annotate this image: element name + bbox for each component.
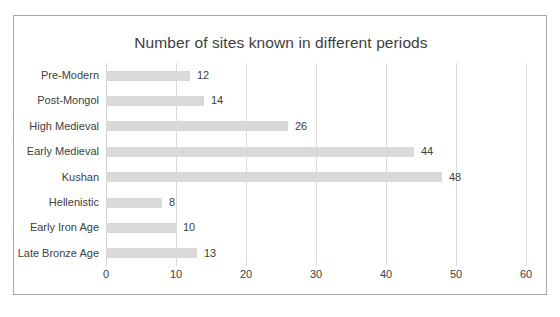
bar[interactable] xyxy=(106,71,190,81)
x-tick-label: 10 xyxy=(170,268,182,280)
bar-row: Pre-Modern12 xyxy=(106,63,526,88)
bar[interactable] xyxy=(106,121,288,131)
category-label: Hellenistic xyxy=(49,190,99,215)
gridline-60 xyxy=(526,63,527,266)
x-tick-label: 30 xyxy=(310,268,322,280)
chart-container: Number of sites known in different perio… xyxy=(13,15,547,295)
bar[interactable] xyxy=(106,147,414,157)
x-tick-label: 20 xyxy=(240,268,252,280)
bar-value-label: 44 xyxy=(421,139,433,164)
bar-value-label: 8 xyxy=(169,190,175,215)
category-label: Kushan xyxy=(62,165,99,190)
category-label: Late Bronze Age xyxy=(18,241,99,266)
bar-row: Early Medieval44 xyxy=(106,139,526,164)
category-label: High Medieval xyxy=(29,114,99,139)
bar-row: Late Bronze Age13 xyxy=(106,241,526,266)
bar[interactable] xyxy=(106,172,442,182)
chart-title: Number of sites known in different perio… xyxy=(14,34,548,52)
bar-value-label: 48 xyxy=(449,165,461,190)
bar-row: Hellenistic8 xyxy=(106,190,526,215)
category-label: Early Iron Age xyxy=(30,215,99,240)
bar-value-label: 13 xyxy=(204,241,216,266)
category-label: Early Medieval xyxy=(27,139,99,164)
bar-row: Early Iron Age10 xyxy=(106,215,526,240)
plot-area: Pre-Modern12Post-Mongol14High Medieval26… xyxy=(106,63,526,266)
bar[interactable] xyxy=(106,198,162,208)
bar[interactable] xyxy=(106,248,197,258)
bar-row: Post-Mongol14 xyxy=(106,88,526,113)
bar-value-label: 14 xyxy=(211,88,223,113)
bar[interactable] xyxy=(106,96,204,106)
bar-value-label: 10 xyxy=(183,215,195,240)
x-axis-tick-labels: 0102030405060 xyxy=(106,268,526,288)
bar-row: High Medieval26 xyxy=(106,114,526,139)
x-tick-label: 50 xyxy=(450,268,462,280)
x-tick-label: 60 xyxy=(520,268,532,280)
bar-value-label: 12 xyxy=(197,63,209,88)
bar-row: Kushan48 xyxy=(106,165,526,190)
bar-value-label: 26 xyxy=(295,114,307,139)
category-label: Pre-Modern xyxy=(41,63,99,88)
x-tick-label: 40 xyxy=(380,268,392,280)
category-label: Post-Mongol xyxy=(37,88,99,113)
x-tick-label: 0 xyxy=(103,268,109,280)
bar[interactable] xyxy=(106,223,176,233)
